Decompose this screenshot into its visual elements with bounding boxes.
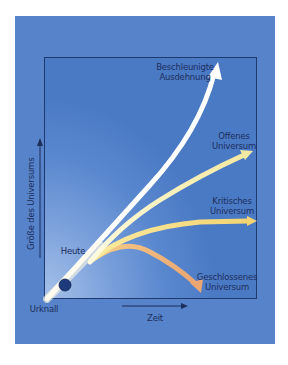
label-critical-universe: Kritisches Universum (207, 196, 257, 216)
today-label: Heute (58, 246, 88, 256)
x-axis-label: Zeit (140, 313, 170, 323)
label-open-universe: Offenes Universum (210, 131, 258, 151)
y-axis-arrow (37, 138, 43, 258)
origin-label: Urknall (26, 304, 62, 314)
label-closed-universe: Geschlossenes Universum (196, 272, 258, 292)
today-dot (59, 279, 71, 291)
x-axis-arrow (122, 303, 188, 309)
curve-closed-universe (95, 246, 203, 293)
y-axis-label: Größe des Universums (26, 158, 36, 250)
label-accelerating-expansion: Beschleunigte Ausdehnung (150, 62, 220, 82)
